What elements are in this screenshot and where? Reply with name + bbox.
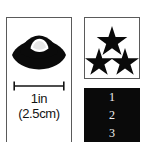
index-list: 1 2 3 — [84, 88, 140, 142]
star-rating-panel — [84, 17, 140, 79]
specimen-panel: 1in (2.5cm) — [6, 17, 72, 142]
star-icon-2 — [85, 48, 113, 75]
star-icon-3 — [111, 48, 139, 75]
index-item-2: 2 — [84, 106, 140, 124]
scale-bar-metric-label: (2.5cm) — [7, 107, 71, 122]
star-icon-1 — [97, 26, 128, 55]
star-group — [85, 18, 139, 78]
scale-bar-imperial-label: 1in — [7, 92, 71, 107]
figure-root: 1in (2.5cm) 1 — [0, 0, 146, 142]
numbered-index-strip: 1 2 3 — [84, 88, 140, 142]
flying-saucer-silhouette-icon — [7, 24, 71, 78]
index-item-1: 1 — [84, 88, 140, 106]
scale-bar-caption: 1in (2.5cm) — [7, 92, 71, 121]
index-item-3: 3 — [84, 124, 140, 142]
